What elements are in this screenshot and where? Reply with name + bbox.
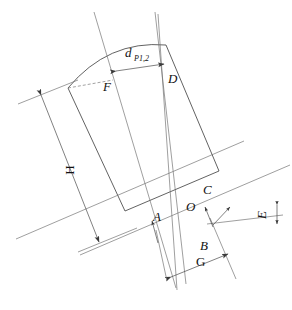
technical-diagram: H d Р1,2 G E D F C O A B <box>0 0 292 310</box>
label-B-text: B <box>200 238 208 253</box>
label-d-text: d <box>125 45 132 60</box>
label-E-text: E <box>254 211 269 220</box>
label-d-p12: d Р1,2 <box>125 45 149 63</box>
label-H-text: H <box>62 165 77 174</box>
body-outline <box>68 45 219 211</box>
dimension-G <box>156 230 228 281</box>
label-G-text: G <box>196 254 205 269</box>
label-d-subscript: Р1,2 <box>133 54 149 63</box>
dimension-d-p12 <box>116 64 164 71</box>
label-O-text: O <box>186 199 196 214</box>
construction-lines <box>16 12 290 290</box>
diagram-canvas: H d Р1,2 G E D F C O A B <box>0 0 292 310</box>
label-F-text: F <box>102 79 112 94</box>
label-A-text: A <box>152 209 161 224</box>
label-G: G <box>196 254 205 269</box>
label-C-text: C <box>203 182 212 197</box>
label-H: H <box>62 165 77 174</box>
label-D-text: D <box>167 71 178 86</box>
label-E: E <box>254 211 269 220</box>
